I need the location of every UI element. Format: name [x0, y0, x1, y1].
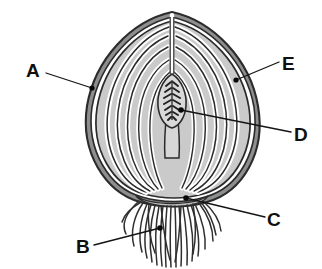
leader-line-c [186, 198, 265, 217]
marker-dot-a [89, 85, 94, 90]
marker-dot-b [157, 225, 163, 231]
root-strand [170, 206, 171, 267]
marker-dot-c [183, 195, 189, 201]
root-strand [183, 206, 187, 265]
label-c: C [267, 210, 281, 229]
leader-line-a [46, 73, 92, 88]
root-strand [156, 206, 159, 265]
marker-dot-e [233, 77, 238, 82]
marker-dot-d [178, 107, 184, 113]
label-e: E [282, 54, 295, 73]
root-strand [150, 205, 155, 262]
label-a: A [26, 61, 40, 80]
diagram-canvas: A E D C B [0, 0, 322, 269]
root-strand [124, 201, 139, 234]
label-d: D [294, 125, 308, 144]
label-b: B [76, 237, 90, 256]
